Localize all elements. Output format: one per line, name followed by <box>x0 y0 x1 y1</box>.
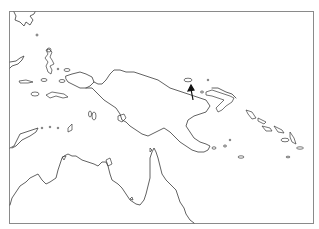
island-manus <box>184 78 192 82</box>
coastline-timor <box>10 128 38 148</box>
island-buru <box>31 92 39 96</box>
island-new-georgia <box>262 126 272 131</box>
island-tiwi <box>106 158 112 166</box>
island-halmahera <box>45 49 54 74</box>
island-santa-isabel <box>274 126 284 133</box>
island-choiseul <box>258 118 266 124</box>
location-arrow-icon <box>188 85 194 100</box>
island-obi <box>41 79 47 82</box>
island-aru <box>92 112 96 120</box>
coastline-sulawesi <box>10 56 24 68</box>
island-sula <box>19 80 33 83</box>
island-guadalcanal <box>281 138 289 142</box>
island-small <box>36 34 38 36</box>
island-kolepom <box>118 114 126 122</box>
island-seram <box>46 92 68 98</box>
island-small <box>286 156 290 158</box>
coastline-new-guinea <box>66 70 210 152</box>
island-trobriand <box>224 145 227 147</box>
coastline-northern-australia <box>10 148 194 223</box>
map-frame <box>10 12 314 224</box>
island-groote-eylandt <box>62 156 66 160</box>
island-misool <box>59 80 65 83</box>
island-torres <box>150 148 152 152</box>
island-small <box>207 79 209 81</box>
island-dentrecasteaux <box>212 147 216 149</box>
island-waigeo <box>64 69 70 72</box>
island-makira <box>297 147 304 149</box>
island-small <box>49 126 51 128</box>
coastline-new-ireland <box>212 88 236 98</box>
island-small <box>201 91 204 93</box>
island-small <box>229 139 231 141</box>
map-canvas <box>0 0 319 229</box>
island-kai <box>89 111 92 117</box>
coastline-mindanao <box>14 12 35 26</box>
island-bougainville <box>246 110 256 119</box>
island-small <box>57 127 59 129</box>
island-small <box>41 127 43 129</box>
island-mornington <box>130 197 133 200</box>
island-tanimbar <box>68 124 72 132</box>
island-louisiade <box>238 156 244 158</box>
island-malaita <box>290 132 296 144</box>
island-small <box>57 68 59 70</box>
